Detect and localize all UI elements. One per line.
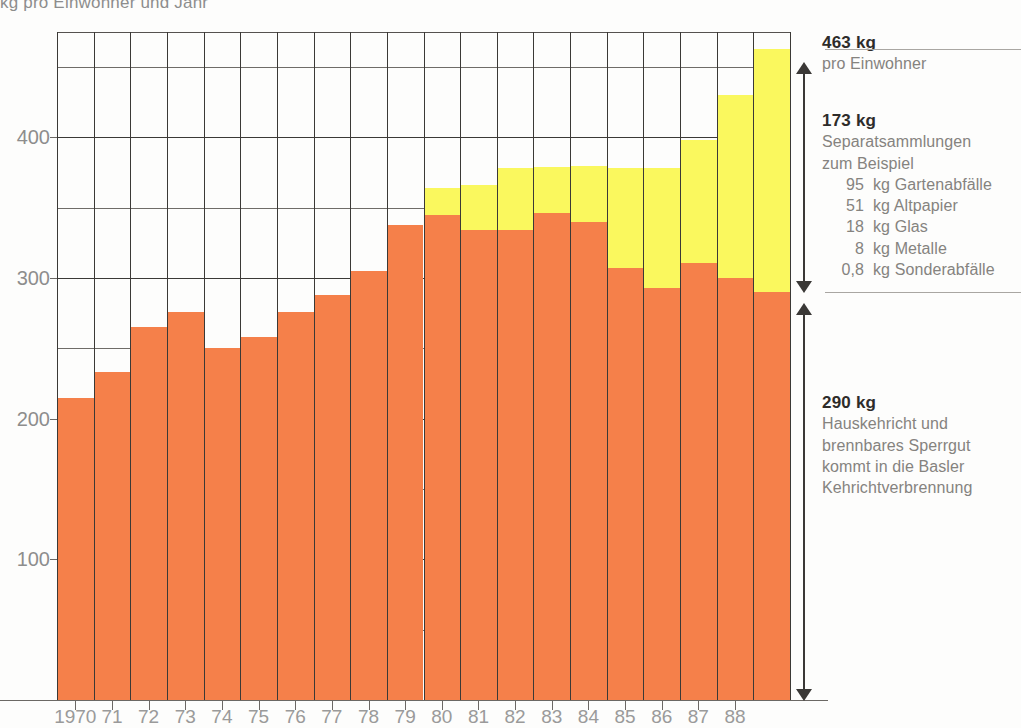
- bar-segment-separate: [680, 140, 717, 262]
- gridline-vertical-10: [424, 32, 425, 700]
- x-tick-80: [442, 700, 443, 710]
- x-tick-74: [222, 700, 223, 710]
- bar-segment-household: [130, 327, 167, 700]
- breakdown-row-glas: 18kg Glas: [822, 216, 1021, 237]
- breakdown-amount: 95: [822, 174, 864, 195]
- total-value: 463 kg: [822, 32, 1021, 53]
- household-line-4: Kehrichtverbrennung: [822, 477, 1021, 498]
- bar-segment-household: [680, 263, 717, 700]
- bar-82: [497, 168, 534, 700]
- household-line-2: brennbares Sperrgut: [822, 435, 1021, 456]
- annotation-total: 463 kg pro Einwohner: [822, 32, 1021, 75]
- bar-1970: [57, 398, 94, 700]
- gridline-vertical-6: [277, 32, 278, 700]
- bar-segment-separate: [753, 49, 790, 292]
- x-tick-72: [149, 700, 150, 710]
- bar-73: [167, 312, 204, 700]
- bar-segment-household: [387, 225, 424, 700]
- bar-88: [717, 95, 754, 700]
- gridline-vertical-18: [717, 32, 718, 700]
- bar-segment-household: [167, 312, 204, 700]
- x-tick-86: [662, 700, 663, 710]
- breakdown-row-altpapier: 51kg Altpapier: [822, 195, 1021, 216]
- x-tick-78: [369, 700, 370, 710]
- separate-line-1: Separatsammlungen: [822, 131, 1021, 152]
- bar-87: [680, 140, 717, 700]
- separate-value: 173 kg: [822, 110, 1021, 131]
- rule-household-level: [825, 292, 1021, 293]
- x-axis-labels: 1970717273747576777879808182838485868788: [57, 706, 790, 728]
- breakdown-row-sonderabfälle: 0,8kg Sonderabfälle: [822, 259, 1021, 280]
- bar-segment-household: [460, 230, 497, 700]
- bar-segment-household: [570, 222, 607, 700]
- bar-80: [424, 188, 461, 700]
- bar-segment-household: [753, 292, 790, 700]
- bar-83: [533, 167, 570, 700]
- x-tick-82: [515, 700, 516, 710]
- bar-77: [314, 295, 351, 700]
- x-tick-87: [698, 700, 699, 710]
- household-value: 290 kg: [822, 392, 1021, 413]
- bar-segment-household: [314, 295, 351, 700]
- bar-86: [643, 168, 680, 700]
- breakdown-label: kg Sonderabfälle: [864, 259, 995, 280]
- household-line-3: kommt in die Basler: [822, 456, 1021, 477]
- x-tick-81: [478, 700, 479, 710]
- annotation-panel: 463 kg pro Einwohner 173 kg Separatsamml…: [790, 0, 1021, 728]
- household-line-1: Hauskehricht und: [822, 413, 1021, 434]
- bar-segment-separate: [497, 168, 534, 230]
- gridline-vertical-8: [350, 32, 351, 700]
- breakdown-label: kg Metalle: [864, 238, 947, 259]
- gridline-vertical-4: [204, 32, 205, 700]
- x-axis-line: [0, 700, 828, 701]
- bar-segment-separate: [643, 168, 680, 288]
- household-waste-measure-line: [803, 310, 805, 694]
- bar-segment-household: [533, 213, 570, 700]
- bar-segment-household: [607, 268, 644, 700]
- bar-84: [570, 166, 607, 700]
- separate-breakdown-list: 95kg Gartenabfälle51kg Altpapier18kg Gla…: [822, 174, 1021, 280]
- separate-collection-arrow-down-icon: [796, 281, 812, 293]
- bar-segment-household: [424, 215, 461, 700]
- gridline-vertical-11: [460, 32, 461, 700]
- bar-segment-household: [717, 278, 754, 700]
- bar-segment-household: [240, 337, 277, 700]
- bar-71: [94, 372, 131, 700]
- x-tick-75: [259, 700, 260, 710]
- bar-segment-household: [643, 288, 680, 700]
- bar-88: [753, 49, 790, 700]
- gridline-vertical-19: [753, 32, 754, 700]
- bar-78: [350, 271, 387, 700]
- breakdown-row-metalle: 8kg Metalle: [822, 238, 1021, 259]
- bar-85: [607, 168, 644, 700]
- bar-segment-household: [204, 348, 241, 700]
- gridline-vertical-9: [387, 32, 388, 700]
- x-tick-73: [185, 700, 186, 710]
- breakdown-label: kg Altpapier: [864, 195, 958, 216]
- bar-segment-separate: [533, 167, 570, 213]
- y-label-300: 300: [17, 267, 50, 290]
- breakdown-label: kg Gartenabfälle: [864, 174, 992, 195]
- gridline-vertical-3: [167, 32, 168, 700]
- breakdown-amount: 18: [822, 216, 864, 237]
- gridline-vertical-16: [643, 32, 644, 700]
- waste-statistics-chart: kg pro Einwohner und Jahr 100200300400 1…: [0, 0, 1021, 728]
- x-tick-79: [405, 700, 406, 710]
- bar-segment-household: [57, 398, 94, 700]
- bar-segment-separate: [607, 168, 644, 268]
- household-waste-arrow-up-icon: [796, 303, 812, 315]
- gridline-vertical-17: [680, 32, 681, 700]
- gridline-vertical-1: [94, 32, 95, 700]
- breakdown-amount: 0,8: [822, 259, 864, 280]
- breakdown-amount: 51: [822, 195, 864, 216]
- breakdown-row-gartenabfälle: 95kg Gartenabfälle: [822, 174, 1021, 195]
- bar-segment-household: [94, 372, 131, 700]
- bar-76: [277, 312, 314, 700]
- separate-line-2: zum Beispiel: [822, 153, 1021, 174]
- x-tick-71: [112, 700, 113, 710]
- gridline-vertical-2: [130, 32, 131, 700]
- annotation-separate-collection: 173 kg Separatsammlungen zum Beispiel 95…: [822, 110, 1021, 280]
- bar-75: [240, 337, 277, 700]
- y-label-100: 100: [17, 548, 50, 571]
- y-label-400: 400: [17, 126, 50, 149]
